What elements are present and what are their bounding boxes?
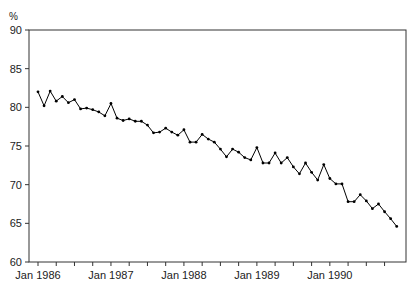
series-line xyxy=(38,91,397,226)
data-point xyxy=(110,102,113,105)
data-point xyxy=(122,119,125,122)
data-point xyxy=(274,152,277,155)
y-tick-label: 65 xyxy=(10,217,22,229)
data-point xyxy=(213,141,216,144)
data-point xyxy=(347,200,350,203)
data-point xyxy=(43,104,46,107)
data-point xyxy=(134,120,137,123)
data-point xyxy=(298,172,301,175)
data-point xyxy=(201,133,204,136)
data-point xyxy=(116,117,119,120)
y-axis-unit-label: % xyxy=(9,11,18,22)
data-point xyxy=(73,98,76,101)
data-point xyxy=(55,100,58,103)
data-point xyxy=(304,162,307,165)
data-point xyxy=(328,177,331,180)
data-point xyxy=(146,124,149,127)
line-chart: 60657075808590 Jan 1986Jan 1987Jan 1988J… xyxy=(0,0,418,292)
x-axis: Jan 1986Jan 1987Jan 1988Jan 1989Jan 1990 xyxy=(15,262,384,281)
data-point xyxy=(189,141,192,144)
data-point xyxy=(170,131,173,134)
data-point xyxy=(49,90,52,93)
data-point xyxy=(359,193,362,196)
data-point xyxy=(164,127,167,130)
data-point xyxy=(310,171,313,174)
y-axis: 60657075808590 xyxy=(10,24,29,268)
data-point xyxy=(231,148,234,151)
y-tick-label: 60 xyxy=(10,256,22,268)
data-point xyxy=(353,200,356,203)
data-point xyxy=(389,217,392,220)
data-point xyxy=(377,203,380,206)
data-point xyxy=(85,107,88,110)
data-point xyxy=(225,155,228,158)
data-point xyxy=(152,131,155,134)
data-point xyxy=(255,146,258,149)
data-point xyxy=(158,131,161,134)
x-tick-label: Jan 1990 xyxy=(307,269,352,281)
x-tick-label: Jan 1988 xyxy=(161,269,206,281)
y-tick-label: 70 xyxy=(10,179,22,191)
data-point xyxy=(316,179,319,182)
data-point xyxy=(37,90,40,93)
data-point xyxy=(292,165,295,168)
x-tick-label: Jan 1989 xyxy=(234,269,279,281)
data-point xyxy=(262,162,265,165)
data-point xyxy=(395,225,398,228)
data-point xyxy=(237,151,240,154)
data-point xyxy=(128,118,131,121)
x-tick-label: Jan 1986 xyxy=(15,269,60,281)
y-tick-label: 80 xyxy=(10,101,22,113)
data-point xyxy=(103,114,106,117)
data-point xyxy=(207,138,210,141)
data-point xyxy=(322,163,325,166)
data-point xyxy=(243,156,246,159)
data-point xyxy=(341,182,344,185)
data-point xyxy=(249,159,252,162)
data-point xyxy=(286,156,289,159)
data-point xyxy=(383,210,386,213)
data-point xyxy=(365,200,368,203)
data-point xyxy=(280,162,283,165)
data-point xyxy=(176,134,179,137)
data-series xyxy=(37,90,399,228)
x-tick-label: Jan 1987 xyxy=(88,269,133,281)
y-tick-label: 90 xyxy=(10,24,22,36)
data-point xyxy=(61,95,64,98)
data-point xyxy=(371,207,374,210)
data-point xyxy=(335,182,338,185)
data-point xyxy=(79,107,82,110)
data-point xyxy=(97,111,100,114)
data-point xyxy=(183,128,186,131)
data-point xyxy=(91,108,94,111)
data-point xyxy=(219,148,222,151)
y-tick-label: 75 xyxy=(10,140,22,152)
y-tick-label: 85 xyxy=(10,63,22,75)
data-point xyxy=(67,101,70,104)
data-point xyxy=(140,120,143,123)
data-point xyxy=(195,141,198,144)
data-point xyxy=(268,162,271,165)
